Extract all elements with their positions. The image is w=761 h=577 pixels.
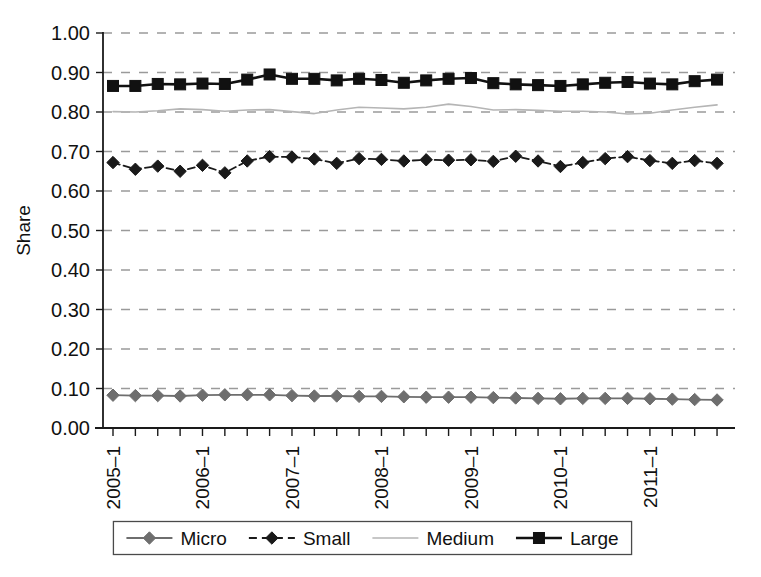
series-marker-micro <box>129 389 141 401</box>
series-marker-small <box>174 165 186 177</box>
series-marker-micro <box>644 393 656 405</box>
series-marker-small <box>398 155 410 167</box>
series-marker-micro <box>375 390 387 402</box>
series-marker-micro <box>353 390 365 402</box>
series-marker-large <box>108 80 119 91</box>
legend-swatch-marker-large <box>533 533 544 544</box>
gridlines <box>103 33 735 428</box>
series-marker-large <box>465 73 476 84</box>
series-marker-micro <box>577 392 589 404</box>
y-tick-label: 0.80 <box>51 101 90 123</box>
series-marker-micro <box>152 389 164 401</box>
y-tick-label: 0.50 <box>51 220 90 242</box>
series-marker-micro <box>174 390 186 402</box>
y-tick-label: 0.70 <box>51 141 90 163</box>
series-marker-large <box>286 73 297 84</box>
series-marker-small <box>621 150 633 162</box>
x-tick-label-2010-1: 2010–1 <box>550 446 571 509</box>
series-marker-large <box>130 80 141 91</box>
y-tick-label: 0.30 <box>51 299 90 321</box>
series-marker-large <box>309 73 320 84</box>
series-marker-small <box>420 154 432 166</box>
series-marker-micro <box>420 391 432 403</box>
series-marker-small <box>599 152 611 164</box>
series-marker-large <box>175 79 186 90</box>
series-marker-large <box>376 75 387 86</box>
series-marker-large <box>264 69 275 80</box>
x-tick-label-2009-1: 2009–1 <box>461 446 482 509</box>
y-tick-label: 0.10 <box>51 378 90 400</box>
series-marker-micro <box>509 392 521 404</box>
series-marker-small <box>554 160 566 172</box>
series-marker-micro <box>442 391 454 403</box>
series-marker-micro <box>599 392 611 404</box>
series-marker-small <box>532 155 544 167</box>
series-marker-large <box>354 73 365 84</box>
series-marker-small <box>331 157 343 169</box>
series-marker-small <box>666 157 678 169</box>
series-marker-small <box>129 163 141 175</box>
y-axis-title: Share <box>13 205 34 256</box>
y-tick-label: 1.00 <box>51 22 90 44</box>
series-marker-small <box>263 150 275 162</box>
series-marker-micro <box>308 390 320 402</box>
series-marker-large <box>533 80 544 91</box>
series-marker-micro <box>688 393 700 405</box>
series-marker-large <box>421 75 432 86</box>
series-marker-small <box>487 155 499 167</box>
series-marker-large <box>152 78 163 89</box>
series-marker-small <box>644 154 656 166</box>
series-marker-large <box>488 78 499 89</box>
series-marker-micro <box>554 393 566 405</box>
y-tick-label: 0.20 <box>51 338 90 360</box>
series-marker-large <box>219 78 230 89</box>
series-marker-micro <box>196 389 208 401</box>
data-series <box>107 69 723 406</box>
series-marker-micro <box>666 393 678 405</box>
series-marker-large <box>667 79 678 90</box>
x-tick-label-2005-1: 2005–1 <box>103 446 124 509</box>
series-marker-small <box>465 154 477 166</box>
series-marker-small <box>286 151 298 163</box>
series-marker-small <box>375 153 387 165</box>
y-tick-label: 0.40 <box>51 259 90 281</box>
series-marker-small <box>152 160 164 172</box>
x-axis: 2005–12006–12007–12008–12009–12010–12011… <box>95 428 735 509</box>
series-marker-micro <box>219 389 231 401</box>
series-marker-small <box>353 152 365 164</box>
share-line-chart: 1.000.900.800.700.600.500.400.300.200.10… <box>0 0 761 577</box>
series-marker-large <box>197 78 208 89</box>
series-marker-micro <box>286 389 298 401</box>
series-marker-small <box>308 153 320 165</box>
series-marker-large <box>242 74 253 85</box>
series-marker-large <box>689 76 700 87</box>
series-marker-small <box>688 154 700 166</box>
x-tick-label-2011-1: 2011–1 <box>640 446 661 508</box>
series-marker-small <box>711 157 723 169</box>
x-tick-label-2006-1: 2006–1 <box>192 446 213 509</box>
legend-label-small: Small <box>303 528 351 549</box>
series-marker-micro <box>107 389 119 401</box>
chart-figure: 1.000.900.800.700.600.500.400.300.200.10… <box>0 0 761 577</box>
series-marker-micro <box>331 390 343 402</box>
series-marker-large <box>398 77 409 88</box>
y-tick-label: 0.00 <box>51 417 90 439</box>
legend-label-micro: Micro <box>180 528 226 549</box>
series-marker-micro <box>398 391 410 403</box>
series-marker-micro <box>241 389 253 401</box>
series-marker-large <box>555 80 566 91</box>
series-marker-small <box>577 156 589 168</box>
legend-label-medium: Medium <box>426 528 494 549</box>
series-marker-large <box>600 77 611 88</box>
x-tick-label-2008-1: 2008–1 <box>371 446 392 509</box>
series-micro <box>107 389 723 407</box>
series-marker-small <box>107 156 119 168</box>
series-marker-small <box>442 154 454 166</box>
series-marker-small <box>241 155 253 167</box>
series-marker-large <box>510 79 521 90</box>
series-marker-small <box>196 159 208 171</box>
series-marker-micro <box>487 391 499 403</box>
series-marker-large <box>622 76 633 87</box>
series-marker-micro <box>532 392 544 404</box>
series-marker-micro <box>621 392 633 404</box>
